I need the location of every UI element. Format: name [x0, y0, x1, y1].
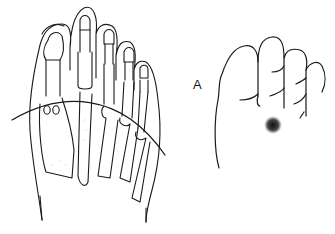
medical-figure: A: [0, 0, 335, 234]
panel-label-a: A: [193, 78, 202, 91]
marked-spot: [264, 116, 282, 134]
foot-skeleton-drawing: [0, 0, 335, 234]
forefoot-outline-drawing: [215, 37, 325, 168]
